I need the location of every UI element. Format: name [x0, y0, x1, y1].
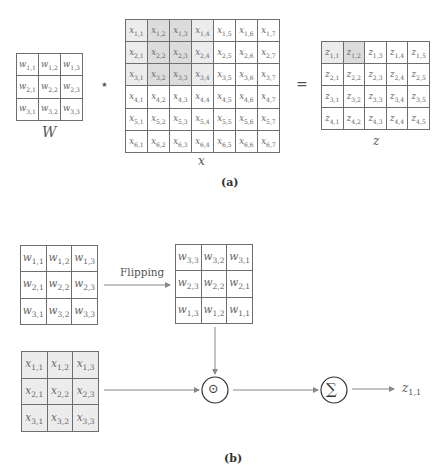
hadamard-product-icon: ⊙: [208, 381, 219, 396]
result-subscript: 1,1: [408, 388, 421, 397]
summation-icon: ∑: [326, 380, 337, 398]
result-z11: z1,1: [402, 381, 421, 397]
flow-arrows: [0, 0, 445, 475]
caption-b: (b): [224, 452, 242, 465]
